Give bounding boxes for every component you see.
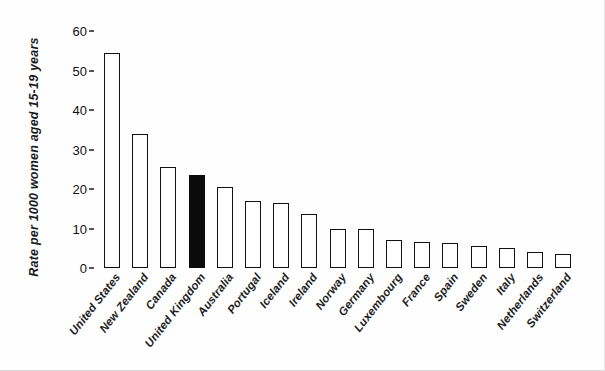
bar-slot [381, 31, 409, 268]
bar-slot [184, 31, 212, 268]
bar-france [414, 242, 430, 268]
bar-netherlands [527, 252, 543, 268]
bar-canada [160, 167, 176, 268]
bar-slot [268, 31, 296, 268]
y-tick-label: 40 [73, 103, 87, 118]
bar-slot [155, 31, 183, 268]
bar-portugal [245, 201, 261, 268]
bar-slot [522, 31, 550, 268]
bar-slot [409, 31, 437, 268]
bar-slot [466, 31, 494, 268]
y-tick-mark [89, 149, 94, 151]
bar-slot [494, 31, 522, 268]
y-tick-mark [89, 188, 94, 190]
y-tick-label: 30 [73, 142, 87, 157]
bar-spain [442, 243, 458, 268]
bar-series [96, 31, 592, 268]
bar-italy [499, 248, 515, 268]
bar-slot [550, 31, 578, 268]
bar-united-states [104, 53, 120, 268]
y-axis-title: Rate per 1000 women aged 15-19 years [27, 7, 41, 307]
bar-slot [99, 31, 127, 268]
plot-area: 0102030405060 United StatesNew ZealandCa… [96, 31, 592, 268]
x-tick-label: France [400, 271, 433, 309]
bar-slot [353, 31, 381, 268]
bar-slot [212, 31, 240, 268]
y-tick-label: 60 [73, 24, 87, 39]
bar-slot [437, 31, 465, 268]
y-tick-mark [89, 109, 94, 111]
bar-slot [240, 31, 268, 268]
x-tick-label: Spain [432, 271, 461, 303]
bar-luxembourg [386, 240, 402, 268]
x-tick-label: Italy [493, 271, 517, 297]
bar-germany [358, 229, 374, 268]
y-tick-mark [89, 228, 94, 230]
bar-slot [127, 31, 155, 268]
bar-iceland [273, 203, 289, 268]
y-tick-mark [89, 70, 94, 72]
bar-sweden [471, 246, 487, 268]
y-tick-label: 0 [80, 261, 87, 276]
bar-new-zealand [132, 134, 148, 268]
y-tick-mark [89, 267, 94, 269]
y-tick-mark [89, 30, 94, 32]
bar-australia [217, 187, 233, 268]
y-tick-label: 50 [73, 63, 87, 78]
bar-united-kingdom [189, 175, 205, 268]
y-tick-label: 10 [73, 221, 87, 236]
bar-switzerland [555, 254, 571, 268]
bar-slot [296, 31, 324, 268]
bar-slot [325, 31, 353, 268]
y-tick-label: 20 [73, 182, 87, 197]
bar-ireland [301, 214, 317, 268]
bar-norway [330, 229, 346, 269]
chart-figure: Rate per 1000 women aged 15-19 years 010… [0, 0, 605, 371]
